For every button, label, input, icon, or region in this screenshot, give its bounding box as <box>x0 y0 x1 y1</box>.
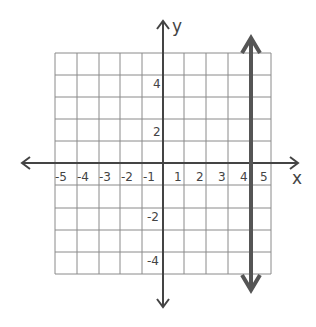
svg-text:5: 5 <box>260 170 268 184</box>
svg-text:-2: -2 <box>147 210 159 224</box>
svg-text:-4: -4 <box>77 170 89 184</box>
svg-text:4: 4 <box>240 170 248 184</box>
svg-text:2: 2 <box>196 170 204 184</box>
svg-text:-4: -4 <box>147 254 159 268</box>
svg-text:4: 4 <box>153 77 161 91</box>
svg-text:-1: -1 <box>143 170 155 184</box>
y-axis-label: y <box>172 16 182 36</box>
svg-text:-3: -3 <box>99 170 111 184</box>
svg-text:2: 2 <box>153 125 161 139</box>
svg-text:-2: -2 <box>121 170 133 184</box>
x-tick-labels: -5 -4 -3 -2 -1 1 2 3 4 5 <box>55 170 268 184</box>
x-axis <box>22 157 298 169</box>
x-axis-label: x <box>292 168 302 188</box>
svg-text:3: 3 <box>218 170 226 184</box>
coordinate-plane: x y -5 -4 -3 -2 -1 1 2 3 4 5 4 2 -2 -4 <box>0 0 316 327</box>
svg-text:1: 1 <box>174 170 182 184</box>
svg-text:-5: -5 <box>55 170 67 184</box>
